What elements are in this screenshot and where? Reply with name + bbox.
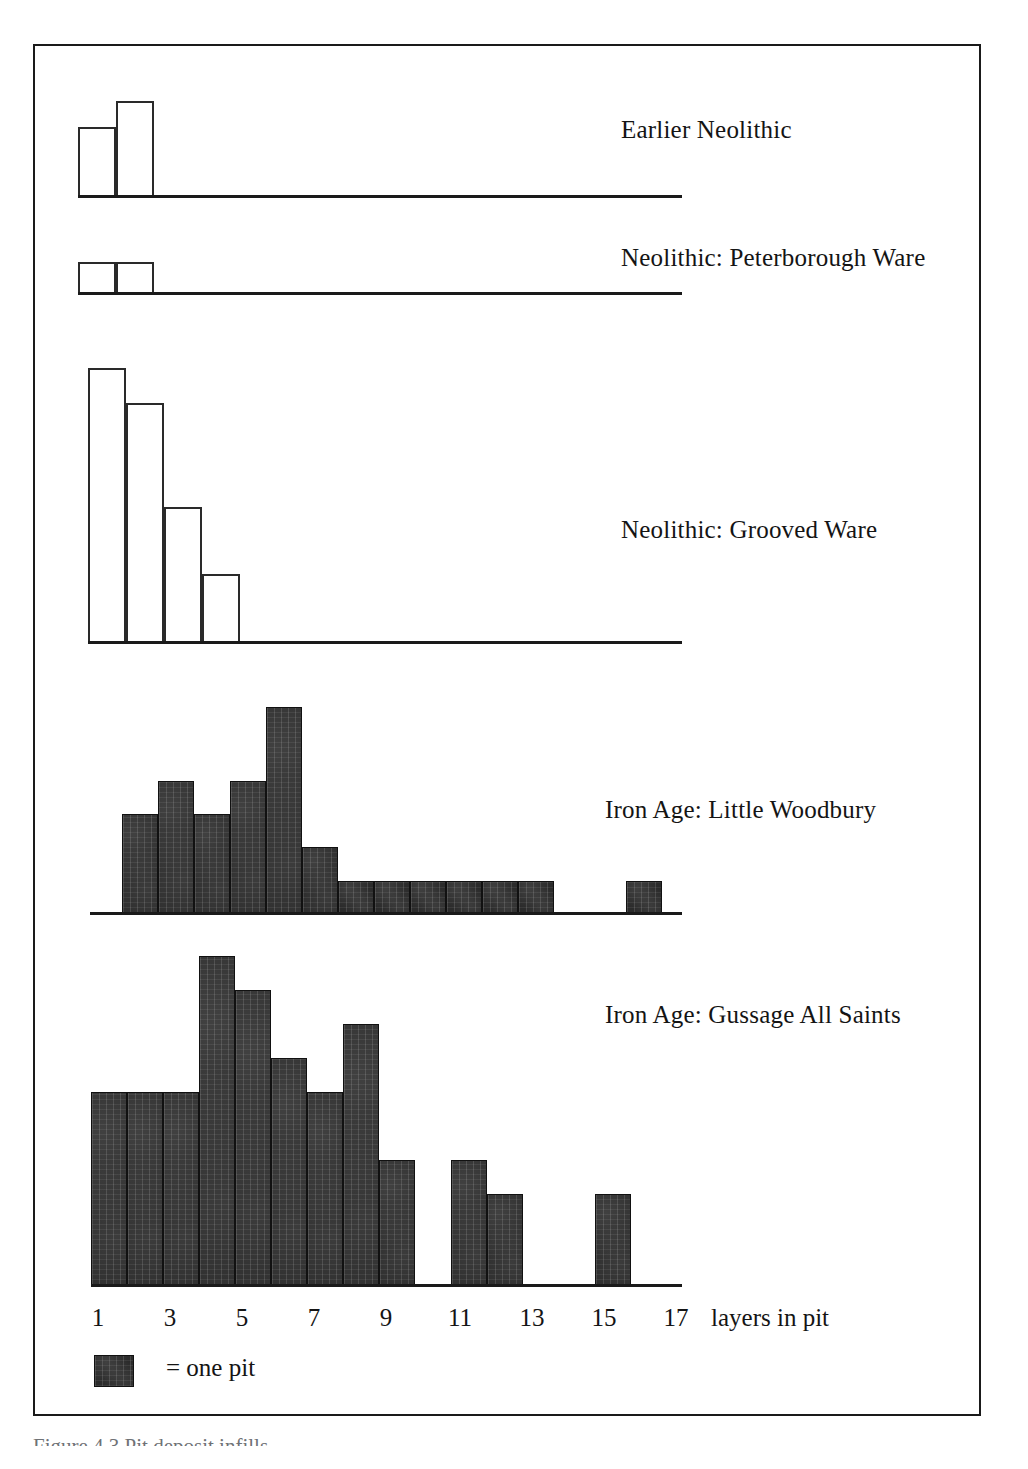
panel-baseline bbox=[78, 292, 682, 295]
bar bbox=[235, 990, 271, 1286]
x-tick-9: 9 bbox=[380, 1304, 393, 1332]
bar bbox=[343, 1024, 379, 1286]
bar bbox=[78, 262, 116, 294]
bar bbox=[410, 881, 446, 914]
x-tick-7: 7 bbox=[308, 1304, 321, 1332]
bar bbox=[307, 1092, 343, 1286]
figure-frame: Earlier Neolithic Neolithic: Peterboroug… bbox=[33, 44, 981, 1416]
bar bbox=[266, 707, 302, 914]
bar bbox=[487, 1194, 523, 1286]
bar bbox=[451, 1160, 487, 1286]
bar bbox=[518, 881, 554, 914]
x-axis-title: layers in pit bbox=[711, 1304, 829, 1332]
bar bbox=[482, 881, 518, 914]
bar bbox=[122, 814, 158, 914]
bar bbox=[91, 1092, 127, 1286]
x-tick-5: 5 bbox=[236, 1304, 249, 1332]
panel-baseline bbox=[91, 1284, 682, 1287]
panel-baseline bbox=[90, 912, 682, 915]
figure-caption: Figure 4.3 Pit deposit infills bbox=[33, 1434, 268, 1459]
bar bbox=[379, 1160, 415, 1286]
bar bbox=[158, 781, 194, 914]
panel-label-peterborough-ware: Neolithic: Peterborough Ware bbox=[621, 244, 925, 272]
bar bbox=[626, 881, 662, 914]
bar bbox=[199, 956, 235, 1286]
bar bbox=[271, 1058, 307, 1286]
bar bbox=[88, 368, 126, 643]
panel-baseline bbox=[78, 195, 682, 198]
x-tick-11: 11 bbox=[448, 1304, 472, 1332]
x-tick-15: 15 bbox=[592, 1304, 617, 1332]
bar bbox=[164, 507, 202, 643]
bar bbox=[595, 1194, 631, 1286]
bar bbox=[116, 262, 154, 294]
bar bbox=[116, 101, 154, 198]
panel-label-little-woodbury: Iron Age: Little Woodbury bbox=[605, 796, 876, 824]
legend-label-one-pit: = one pit bbox=[166, 1354, 255, 1382]
panel-baseline bbox=[88, 641, 682, 644]
panel-label-gussage-all-saints: Iron Age: Gussage All Saints bbox=[605, 1001, 901, 1029]
bar bbox=[302, 847, 338, 914]
panel-label-grooved-ware: Neolithic: Grooved Ware bbox=[621, 516, 877, 544]
x-tick-17: 17 bbox=[664, 1304, 689, 1332]
panel-label-earlier-neolithic: Earlier Neolithic bbox=[621, 116, 792, 144]
bar bbox=[78, 127, 116, 198]
bar bbox=[194, 814, 230, 914]
bar bbox=[338, 881, 374, 914]
bar bbox=[374, 881, 410, 914]
bar bbox=[127, 1092, 163, 1286]
bar bbox=[126, 403, 164, 643]
bar bbox=[230, 781, 266, 914]
bar bbox=[446, 881, 482, 914]
x-tick-13: 13 bbox=[520, 1304, 545, 1332]
x-tick-1: 1 bbox=[92, 1304, 105, 1332]
legend-swatch-one-pit bbox=[94, 1355, 134, 1387]
x-tick-3: 3 bbox=[164, 1304, 177, 1332]
bar bbox=[202, 574, 240, 643]
bar bbox=[163, 1092, 199, 1286]
